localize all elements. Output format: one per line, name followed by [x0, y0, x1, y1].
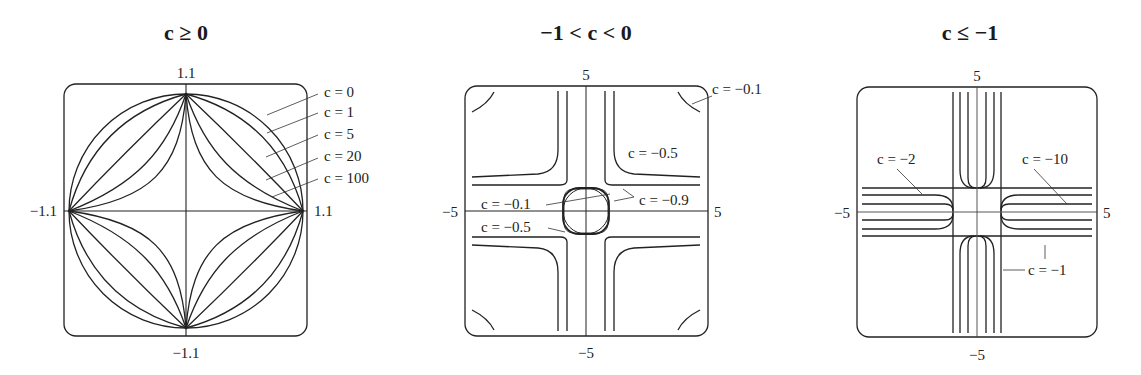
- label-c20: c = 20: [324, 148, 362, 164]
- panel-c-between: −1 < c < 0 5 −5 −5 5: [420, 0, 750, 375]
- level-curves-plot: 5 −5 −5 5 c = −2 c = −10 c = −1: [780, 0, 1141, 375]
- level-curves-plot: 1.1 −1.1 −1.1 1.1 c = 0 c = 1 c = 5 c = …: [0, 0, 380, 375]
- label-c0: c = 0: [324, 84, 354, 100]
- tick-top: 5: [973, 68, 981, 84]
- label-c-neg0.9: c = −0.9: [639, 192, 689, 208]
- tick-bottom: −5: [578, 345, 594, 361]
- leader-lines: [546, 96, 712, 232]
- label-c-neg0.5-center: c = −0.5: [481, 219, 531, 235]
- label-c100: c = 100: [324, 170, 369, 186]
- tick-top: 5: [582, 67, 590, 83]
- tick-left: −5: [834, 205, 850, 221]
- label-c1: c = 1: [324, 104, 354, 120]
- label-c-neg2: c = −2: [877, 151, 916, 167]
- tick-bottom: −1.1: [172, 345, 199, 361]
- panel-c-nonnegative: c ≥ 0 1.1 −1.1 −1.1 1.1: [0, 0, 380, 375]
- tick-right: 5: [1103, 205, 1111, 221]
- label-c-neg1: c = −1: [1028, 262, 1067, 278]
- tick-top: 1.1: [177, 65, 196, 81]
- tick-right: 5: [714, 204, 722, 220]
- label-c-neg10: c = −10: [1022, 151, 1068, 167]
- label-c-neg0.1-corner: c = −0.1: [712, 81, 762, 97]
- tick-right: 1.1: [314, 203, 333, 219]
- label-c-neg0.1-center: c = −0.1: [481, 196, 531, 212]
- level-curves-plot: 5 −5 −5 5 c = −0.1 c = −0.5 c = −0.1 c =…: [420, 0, 750, 375]
- tick-left: −1.1: [30, 203, 57, 219]
- tick-left: −5: [442, 204, 458, 220]
- label-c5: c = 5: [324, 126, 354, 142]
- label-c-neg0.5-upper: c = −0.5: [628, 145, 678, 161]
- tick-bottom: −5: [969, 347, 985, 363]
- panel-c-le-neg1: c ≤ −1: [780, 0, 1141, 375]
